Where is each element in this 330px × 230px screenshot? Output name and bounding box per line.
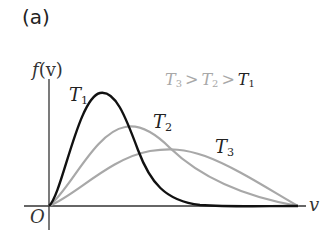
origin-label: O bbox=[30, 208, 45, 226]
temperature-relation: T3>T2>T1 bbox=[165, 72, 255, 89]
curve-label-t2: T2 bbox=[153, 113, 172, 133]
curve-label-t3: T3 bbox=[215, 138, 234, 158]
curve-label-t1: T1 bbox=[69, 86, 88, 106]
y-axis-label: f(v) bbox=[32, 61, 63, 79]
x-axis-label: v bbox=[309, 196, 319, 214]
curve-t2 bbox=[49, 126, 298, 206]
